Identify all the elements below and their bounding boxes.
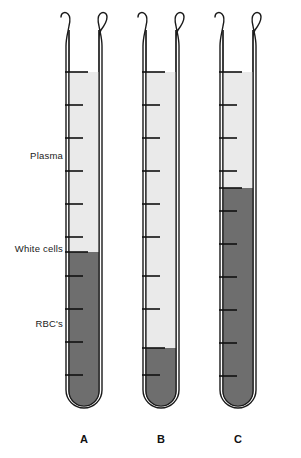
tube-B[interactable] xyxy=(138,13,184,408)
test-tubes-illustration xyxy=(0,0,301,458)
label-rbcs: RBC's xyxy=(35,318,63,329)
tube-caption-c: C xyxy=(218,433,258,445)
tube-caption-b: B xyxy=(141,433,181,445)
label-white-cells: White cells xyxy=(15,243,63,254)
tube-A-plasma-fill xyxy=(69,72,99,252)
tube-C-rbc-fill xyxy=(223,188,253,405)
hematocrit-figure: Plasma White cells RBC's A B C xyxy=(0,0,301,458)
tube-caption-a: A xyxy=(64,433,104,445)
tube-B-plasma-fill xyxy=(146,72,176,348)
tube-A-rbc-fill xyxy=(69,252,99,405)
tube-C[interactable] xyxy=(215,13,261,408)
tube-A[interactable] xyxy=(61,13,107,408)
label-plasma: Plasma xyxy=(30,150,63,161)
tube-B-rbc-fill xyxy=(146,348,176,405)
